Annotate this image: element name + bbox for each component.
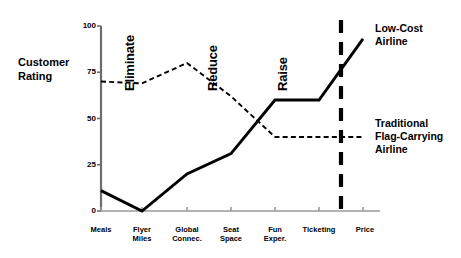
series-line-low-cost-airline: [101, 39, 363, 211]
axes: [101, 26, 380, 211]
series-line-traditional-flag-carrying-airline: [101, 63, 363, 137]
strategy-canvas-chart: Customer Rating 100 75 50 25 0 Meals Fly…: [0, 0, 461, 258]
plot-area: [0, 0, 461, 258]
